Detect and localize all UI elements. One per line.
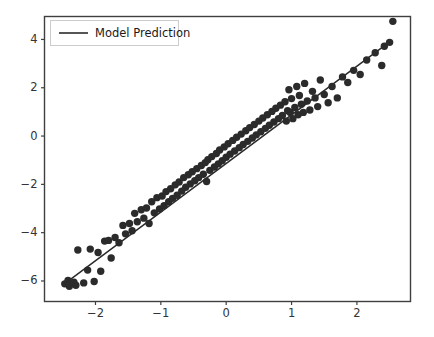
scatter-point <box>293 83 300 90</box>
scatter-point <box>126 220 133 227</box>
scatter-point <box>285 86 292 93</box>
scatter-point <box>296 92 303 99</box>
y-tick-label: 0 <box>30 129 37 143</box>
scatter-point <box>94 249 101 256</box>
x-tick-label: −1 <box>152 306 169 320</box>
scatter-point <box>131 210 138 217</box>
matplotlib-figure: 420−2−4−6 −2−1012 Model Prediction <box>0 0 434 337</box>
y-tick-label: −6 <box>21 273 38 287</box>
scatter-point <box>119 222 126 229</box>
scatter-point <box>105 237 112 244</box>
scatter-point <box>306 106 313 113</box>
scatter-point <box>324 99 331 106</box>
scatter-point <box>200 171 207 178</box>
x-tick-label: 2 <box>353 306 360 320</box>
scatter-point <box>301 80 308 87</box>
scatter-point <box>389 18 396 25</box>
scatter-point <box>80 279 87 286</box>
y-tick-label: −4 <box>21 225 38 239</box>
scatter-point <box>143 204 150 211</box>
x-tick-label: 1 <box>288 306 295 320</box>
scatter-point <box>72 282 79 289</box>
scatter-plot-canvas: 420−2−4−6 −2−1012 Model Prediction <box>0 0 434 337</box>
y-tick-label: 2 <box>30 80 37 94</box>
scatter-point <box>344 79 351 86</box>
legend: Model Prediction <box>51 21 191 46</box>
y-tick-label: 4 <box>30 32 37 46</box>
scatter-point <box>309 88 316 95</box>
legend-label-model-prediction: Model Prediction <box>95 26 190 40</box>
scatter-point <box>97 268 104 275</box>
scatter-point <box>74 246 81 253</box>
scatter-point <box>288 95 295 102</box>
x-tick-label: −2 <box>87 306 104 320</box>
scatter-point <box>378 62 385 69</box>
scatter-point <box>334 94 341 101</box>
scatter-point <box>107 254 114 261</box>
scatter-point <box>300 109 307 116</box>
scatter-point <box>281 98 288 105</box>
scatter-point <box>356 71 363 78</box>
scatter-point <box>90 278 97 285</box>
y-tick-label: −2 <box>21 177 38 191</box>
x-tick-label: 0 <box>223 306 230 320</box>
scatter-point <box>314 103 321 110</box>
scatter-point <box>87 245 94 252</box>
scatter-point <box>134 218 141 225</box>
scatter-point <box>317 76 324 83</box>
scatter-point <box>140 214 147 221</box>
